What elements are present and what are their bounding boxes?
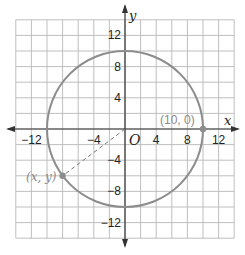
x-axis-arrow-right xyxy=(231,126,240,132)
x-tick-label: 4 xyxy=(153,133,160,147)
y-tick-label: 4 xyxy=(114,91,121,105)
y-tick-label: −12 xyxy=(101,216,122,230)
x-tick-label: 8 xyxy=(184,133,191,147)
x-tick-label: 12 xyxy=(212,133,226,147)
y-tick-label: −8 xyxy=(107,184,121,198)
x-tick-label: −4 xyxy=(87,133,101,147)
y-axis-arrow-up xyxy=(122,4,128,13)
origin-label: O xyxy=(129,132,141,148)
x-tick-label: −12 xyxy=(21,133,42,147)
coordinate-plane: x y O −12−448121284−4−8−12 (10, 0) (x, y… xyxy=(0,0,245,255)
point-10-0 xyxy=(200,126,206,132)
axes: x y O xyxy=(6,4,240,248)
y-tick-label: −4 xyxy=(107,153,121,167)
y-tick-label: 8 xyxy=(114,60,121,74)
y-axis-label: y xyxy=(128,8,137,23)
point-label-x-y: (x, y) xyxy=(26,170,57,184)
x-axis-arrow-left xyxy=(6,126,15,132)
point-x-y xyxy=(59,173,65,179)
y-tick-label: 12 xyxy=(108,28,122,42)
y-axis-arrow-down xyxy=(122,239,128,248)
x-axis-label: x xyxy=(224,113,232,128)
point-label-10-0: (10, 0) xyxy=(160,113,195,127)
